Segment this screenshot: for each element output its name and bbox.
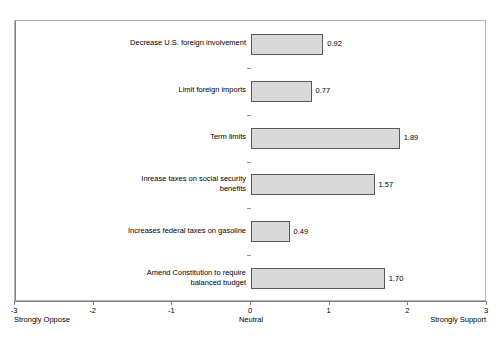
category-tick xyxy=(247,68,251,69)
x-axis-tick-label: 1 xyxy=(327,306,331,315)
bar xyxy=(251,174,375,195)
category-label: Inrease taxes on social security benefit… xyxy=(0,174,246,194)
bar xyxy=(251,221,290,242)
x-axis-tick xyxy=(407,301,408,305)
category-tick xyxy=(247,208,251,209)
axis-anchor-right: Strongly Support xyxy=(430,315,486,324)
x-axis-tick xyxy=(171,301,172,305)
bar-value-label: 0.49 xyxy=(294,228,309,236)
bar-value-label: 0.92 xyxy=(327,40,342,48)
x-axis-tick xyxy=(329,301,330,305)
neutral-axis-line xyxy=(15,21,16,300)
axis-anchor-middle: Neutral xyxy=(239,315,263,324)
x-axis-tick xyxy=(486,301,487,305)
bar xyxy=(251,81,312,102)
category-label: Term limits xyxy=(0,132,246,142)
category-label: Amend Constitution to require balanced b… xyxy=(0,268,246,288)
x-axis-tick-label: -2 xyxy=(89,306,96,315)
bar xyxy=(251,128,400,149)
bar-value-label: 1.57 xyxy=(379,181,394,189)
bar-value-label: 0.77 xyxy=(316,87,331,95)
bar-value-label: 1.70 xyxy=(389,275,404,283)
category-tick xyxy=(247,255,251,256)
plot-area: 0.920.771.891.570.491.70 xyxy=(14,20,486,301)
bar xyxy=(251,34,323,55)
bar xyxy=(251,268,385,289)
category-label: Limit foreign imports xyxy=(0,85,246,95)
x-axis-tick-label: 2 xyxy=(405,306,409,315)
category-tick xyxy=(247,162,251,163)
category-label: Decrease U.S. foreign involvement xyxy=(0,38,246,48)
axis-anchor-left: Strongly Oppose xyxy=(14,315,70,324)
x-axis-tick-label: 3 xyxy=(484,306,488,315)
x-axis-tick xyxy=(93,301,94,305)
x-axis-tick-label: -3 xyxy=(11,306,18,315)
x-axis-tick-label: 0 xyxy=(248,306,252,315)
bar-value-label: 1.89 xyxy=(404,134,419,142)
x-axis-tick-label: -1 xyxy=(168,306,175,315)
category-tick xyxy=(247,115,251,116)
x-axis-tick xyxy=(14,301,15,305)
bar-chart: 0.920.771.891.570.491.70 Decrease U.S. f… xyxy=(0,0,504,342)
x-axis-tick xyxy=(250,301,251,305)
category-label: Increases federal taxes on gasoline xyxy=(0,226,246,236)
